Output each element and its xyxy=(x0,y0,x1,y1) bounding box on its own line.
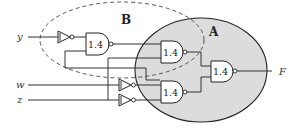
output-f-label: F xyxy=(278,66,287,77)
input-y-label: y xyxy=(16,31,23,42)
nand-gate-b: 1.4 xyxy=(86,33,113,55)
svg-text:1.4: 1.4 xyxy=(213,66,228,77)
region-a-ellipse xyxy=(135,18,267,122)
region-b-label: B xyxy=(121,13,131,27)
region-a-label: A xyxy=(208,25,219,39)
inverter-w xyxy=(119,79,136,91)
svg-text:1.4: 1.4 xyxy=(88,39,103,50)
input-z-label: z xyxy=(16,94,23,105)
inverter-z xyxy=(119,94,136,106)
inverter-y xyxy=(58,31,74,43)
svg-text:1.4: 1.4 xyxy=(163,47,178,58)
svg-text:1.4: 1.4 xyxy=(163,87,178,98)
input-w-label: w xyxy=(16,79,25,90)
logic-circuit-diagram: B A y w z F xyxy=(0,0,299,130)
